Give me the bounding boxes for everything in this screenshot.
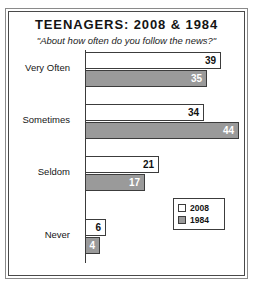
bar-very-often-1984: 35 (85, 70, 207, 87)
bar-value-never-1984: 4 (89, 241, 95, 251)
gray-square-icon (178, 216, 186, 224)
category-label-very-often: Very Often (25, 62, 70, 73)
bar-value-very-often-1984: 35 (191, 74, 202, 84)
legend-label-1984: 1984 (190, 215, 209, 225)
chart-subtitle: "About how often do you follow the news?… (9, 35, 244, 46)
bar-very-often-2008: 39 (85, 52, 221, 69)
bar-value-seldom-2008: 21 (143, 160, 154, 170)
bar-value-sometimes-1984: 44 (223, 126, 234, 136)
bar-seldom-2008: 21 (85, 156, 159, 173)
legend-item-1984: 1984 (178, 214, 220, 226)
white-square-icon (178, 204, 186, 212)
plot-area: Very Often 39 35 Sometimes 34 44 (9, 50, 244, 267)
legend-item-2008: 2008 (178, 202, 220, 214)
bar-never-2008: 6 (85, 219, 106, 236)
category-label-sometimes: Sometimes (22, 114, 70, 125)
bar-never-1984: 4 (85, 237, 100, 254)
chart-legend: 2008 1984 (173, 198, 225, 230)
bar-sometimes-1984: 44 (85, 122, 239, 139)
bar-value-very-often-2008: 39 (205, 56, 216, 66)
bar-value-seldom-1984: 17 (129, 178, 140, 188)
chart-outer-frame: TEENAGERS: 2008 & 1984 "About how often … (5, 8, 248, 279)
bar-value-sometimes-2008: 34 (188, 108, 199, 118)
legend-label-2008: 2008 (190, 203, 209, 213)
chart-title: TEENAGERS: 2008 & 1984 (9, 17, 244, 32)
category-group-very-often: Very Often 39 35 (9, 50, 244, 92)
bar-seldom-1984: 17 (85, 174, 145, 191)
category-group-sometimes: Sometimes 34 44 (9, 102, 244, 144)
bar-sometimes-2008: 34 (85, 104, 204, 121)
chart-inner-frame: TEENAGERS: 2008 & 1984 "About how often … (8, 11, 245, 276)
category-label-seldom: Seldom (38, 166, 70, 177)
category-group-seldom: Seldom 21 17 (9, 154, 244, 196)
category-label-never: Never (45, 229, 70, 240)
bar-value-never-2008: 6 (95, 223, 101, 233)
